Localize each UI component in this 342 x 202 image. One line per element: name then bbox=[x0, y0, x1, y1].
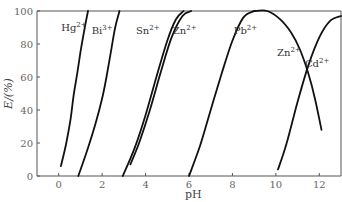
x-axis-title: pH bbox=[185, 188, 202, 201]
y-tick-label: 40 bbox=[20, 105, 33, 116]
ion-label: Hg2+ bbox=[61, 21, 87, 33]
y-tick-label: 80 bbox=[20, 39, 33, 50]
curve-cd2 bbox=[278, 16, 341, 169]
y-tick-label: 100 bbox=[14, 6, 33, 17]
y-tick-label: 20 bbox=[20, 138, 33, 149]
y-tick-label: 0 bbox=[27, 171, 33, 182]
x-tick-label: 8 bbox=[229, 179, 235, 190]
curve-hg2 bbox=[61, 11, 88, 166]
ion-label: Pb2+ bbox=[234, 24, 258, 36]
extraction-chart: 024681012020406080100 Hg2+Bi3+Sn2+Zn2+Pb… bbox=[0, 0, 342, 202]
curve-labels: Hg2+Bi3+Sn2+Zn2+Pb2+Zn2+Cd2+ bbox=[61, 21, 329, 69]
x-tick-label: 10 bbox=[269, 179, 282, 190]
ion-label: Zn2+ bbox=[277, 46, 301, 58]
ion-label: Bi3+ bbox=[92, 24, 113, 36]
y-tick-label: 60 bbox=[20, 72, 33, 83]
ion-label: Sn2+ bbox=[136, 24, 160, 36]
ion-label: Zn2+ bbox=[173, 24, 197, 36]
x-tick-label: 0 bbox=[56, 179, 62, 190]
x-tick-label: 12 bbox=[313, 179, 326, 190]
y-axis-title: E/(%) bbox=[2, 78, 15, 110]
x-tick-label: 4 bbox=[142, 179, 148, 190]
x-tick-label: 2 bbox=[99, 179, 105, 190]
curves bbox=[61, 10, 341, 176]
ion-label: Cd2+ bbox=[305, 57, 330, 69]
curve-zn2-high-ph bbox=[254, 10, 321, 129]
